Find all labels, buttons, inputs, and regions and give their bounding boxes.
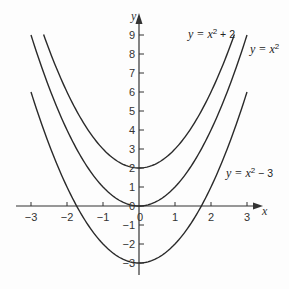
axes [16,13,263,275]
y-tick-label: 8 [129,48,135,60]
y-tick-label: 0 [129,200,135,212]
chart-container: −3−2−101239876543210−1−2−3 y x y = x2 + … [0,0,289,289]
y-tick-label: 7 [129,67,135,79]
y-axis-arrow-icon [136,13,143,24]
ticks: −3−2−101239876543210−1−2−3 [25,29,250,269]
x-tick-label: −2 [61,211,74,223]
curve-label-x2-plus-2: y = x2 + 2 [187,27,235,42]
y-tick-label: 3 [129,143,135,155]
y-tick-label: 5 [129,105,135,117]
y-tick-label: 1 [129,181,135,193]
curve-label-x2-minus-3: y = x2 − 3 [225,166,273,181]
curve-label-x2: y = x2 [249,42,280,57]
x-axis-label: x [261,204,268,218]
y-axis-label: y [130,9,137,23]
x-tick-label: −3 [25,211,38,223]
x-tick-label: −1 [97,211,110,223]
y-tick-label: −1 [122,219,135,231]
y-tick-label: 4 [129,124,135,136]
y-tick-label: −3 [122,257,135,269]
x-tick-label: 1 [172,211,178,223]
y-tick-label: 2 [129,162,135,174]
parabola-chart: −3−2−101239876543210−1−2−3 y x y = x2 + … [0,0,289,289]
y-tick-label: 6 [129,86,135,98]
x-tick-label: 2 [208,211,214,223]
y-tick-label: −2 [122,238,135,250]
y-tick-label: 9 [129,29,135,41]
x-tick-label: 0 [137,211,143,223]
x-tick-label: 3 [244,211,250,223]
